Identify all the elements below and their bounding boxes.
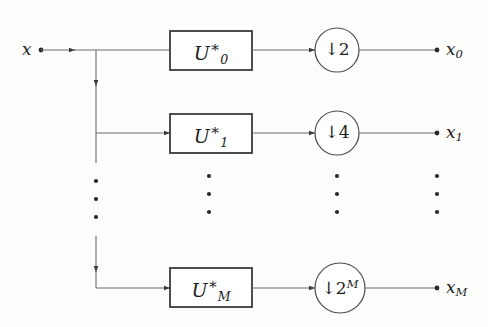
filter-subscript-m: M — [218, 289, 231, 304]
down-arrow-icon-m: ↓ — [322, 278, 336, 298]
filter-superscript-0: ∗ — [210, 38, 220, 56]
decimator-exponent-m: M — [347, 277, 359, 291]
filter-subscript-1: 1 — [220, 135, 228, 150]
output-terminal-dot-0 — [435, 48, 440, 53]
output-subscript-m: M — [456, 285, 468, 299]
decimator-label-1: ↓4 — [315, 124, 359, 141]
decimator-factor-1: 4 — [339, 122, 350, 142]
figure-canvas: x U∗0 ↓2 x0 U∗1 ↓4 x1 U∗M ↓2M xM — [0, 0, 488, 327]
output-symbol-m: x — [446, 277, 456, 297]
filter-box-label-1: U∗1 — [170, 123, 252, 149]
output-symbol-1: x — [446, 122, 456, 142]
input-label: x — [22, 41, 32, 58]
output-subscript-0: 0 — [456, 47, 463, 61]
filter-box-label-0: U∗0 — [170, 40, 252, 66]
output-terminal-dot-1 — [435, 131, 440, 136]
decimator-label-m: ↓2M — [315, 279, 365, 297]
ellipsis-outputs — [435, 174, 439, 214]
filter-superscript-1: ∗ — [210, 121, 220, 139]
output-label-1: x1 — [446, 124, 463, 144]
output-label-0: x0 — [446, 41, 463, 61]
decimator-label-0: ↓2 — [315, 41, 359, 58]
output-subscript-1: 1 — [456, 130, 463, 144]
filter-subscript-0: 0 — [220, 52, 228, 67]
decimator-factor-0: 2 — [339, 39, 350, 59]
decimator-factor-m: 2 — [336, 278, 347, 298]
output-terminal-dot-m — [435, 286, 440, 291]
filter-box-label-m: U∗M — [170, 277, 252, 303]
ellipsis-branch — [94, 179, 98, 219]
filter-symbol-1: U — [194, 125, 210, 147]
output-symbol-0: x — [446, 39, 456, 59]
down-arrow-icon-1: ↓ — [324, 122, 338, 142]
down-arrow-icon-0: ↓ — [324, 39, 338, 59]
input-label-symbol: x — [22, 39, 32, 59]
filter-superscript-m: ∗ — [207, 275, 217, 293]
ellipsis-filters — [207, 174, 211, 214]
ellipsis-decimators — [335, 174, 339, 214]
filter-symbol-m: U — [191, 279, 207, 301]
output-label-m: xM — [446, 279, 467, 299]
filter-symbol-0: U — [194, 42, 210, 64]
